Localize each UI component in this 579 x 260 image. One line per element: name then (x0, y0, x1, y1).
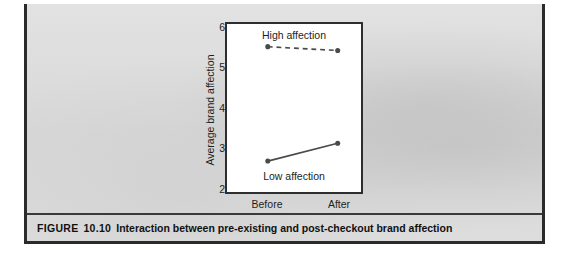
data-point-high-before (265, 44, 270, 49)
data-point-low-after (335, 141, 340, 146)
series-line-low-affection (268, 143, 338, 161)
series-annotation-high-affection: High affection (262, 29, 326, 41)
figure-container: Average brand affection 6 5 4 3 2 (24, 4, 545, 244)
y-tick-label: 6 (211, 21, 225, 33)
series-annotation-low-affection: Low affection (263, 170, 325, 182)
x-tick-label-after: After (328, 198, 350, 210)
plot-svg (227, 24, 361, 192)
y-axis-ticks: 6 5 4 3 2 (205, 4, 225, 244)
figure-screenshot: Average brand affection 6 5 4 3 2 (0, 0, 579, 260)
caption-text: Interaction between pre-existing and pos… (116, 222, 452, 234)
x-tick-label-before: Before (252, 198, 283, 210)
data-point-low-before (265, 158, 270, 163)
data-point-high-after (335, 48, 340, 53)
figure-caption: FIGURE 10.10 Interaction between pre-exi… (37, 218, 534, 238)
series-line-high-affection (268, 47, 338, 51)
y-tick-label: 2 (211, 183, 225, 195)
y-tick-label: 5 (211, 61, 225, 73)
plot-area: High affection Low affection (225, 22, 363, 194)
y-tick-label: 3 (211, 142, 225, 154)
caption-number: 10.10 (83, 222, 111, 234)
x-axis-labels: Before After (225, 198, 363, 214)
caption-divider (27, 213, 542, 215)
y-tick-label: 4 (211, 102, 225, 114)
caption-label: FIGURE (37, 222, 78, 234)
